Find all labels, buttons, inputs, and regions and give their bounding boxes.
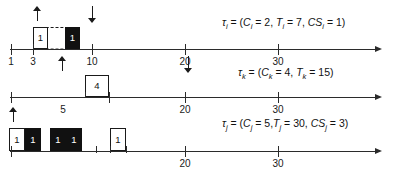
axis-tick xyxy=(85,92,86,98)
close-paren: ) xyxy=(342,16,346,28)
execution-block: 1 xyxy=(110,128,126,151)
task-parameters-tau-i: τi = (Ci = 2, Ti = 7, CSi = 1) xyxy=(222,16,345,33)
arrow-head-down-icon xyxy=(184,68,192,73)
eq3: = xyxy=(306,66,318,78)
axis-tick-label: 20 xyxy=(175,105,195,115)
axis-tick xyxy=(11,44,12,55)
block-label: 1 xyxy=(38,33,43,43)
axis-tick xyxy=(278,44,279,55)
time-axis-row1 xyxy=(10,49,377,50)
axis-tick xyxy=(109,92,110,103)
axis-tick-label: 10 xyxy=(82,57,102,67)
cs-symbol: CS xyxy=(311,117,326,129)
c-symbol: C xyxy=(243,117,251,129)
cs-symbol: CS xyxy=(308,16,323,28)
t-value: 15 xyxy=(318,66,330,78)
axis-arrowhead-icon xyxy=(375,46,382,52)
axis-tick-label: 5 xyxy=(53,105,73,115)
arrow-shaft xyxy=(37,9,38,21)
execution-block: 1 xyxy=(50,128,66,151)
block-label: 1 xyxy=(30,135,35,145)
eq2: = xyxy=(273,66,285,78)
eq3: = xyxy=(281,117,293,129)
c-symbol: C xyxy=(261,66,269,78)
axis-tick xyxy=(278,92,279,103)
axis-tick-label: 30 xyxy=(268,159,288,169)
close-paren: ) xyxy=(345,117,349,129)
execution-block: 1 xyxy=(25,128,41,151)
axis-tick xyxy=(278,146,279,157)
equals: = ( xyxy=(249,66,262,78)
tau-subscript: i xyxy=(226,22,228,31)
axis-arrowhead-icon xyxy=(375,148,382,154)
block-label: 1 xyxy=(14,135,19,145)
deadline-arrow-row1 xyxy=(88,6,97,23)
block-label: 4 xyxy=(94,81,99,91)
tau-subscript: j xyxy=(226,123,228,132)
arrow-shaft xyxy=(188,56,189,68)
eq2: = xyxy=(252,16,264,28)
execution-block: 1 xyxy=(33,27,48,49)
execution-block: 1 xyxy=(65,27,80,49)
time-axis-row2 xyxy=(10,97,377,98)
axis-tick xyxy=(11,92,12,103)
block-label: 1 xyxy=(55,135,60,145)
figure-canvas: 1 1 1 3 10 20 30 τi = (Ci = 2, Ti = 7, C… xyxy=(0,0,403,176)
block-label: 1 xyxy=(71,135,76,145)
arrow-shaft xyxy=(92,6,93,18)
axis-tick xyxy=(33,44,34,55)
block-label: 1 xyxy=(115,135,120,145)
t-value: 30 xyxy=(293,117,305,129)
arrow-head-down-icon xyxy=(88,18,96,23)
time-axis-row3 xyxy=(10,151,377,152)
block-label: 1 xyxy=(70,33,75,43)
arrow-shaft xyxy=(62,59,63,71)
axis-tick-label: 30 xyxy=(268,105,288,115)
axis-tick xyxy=(110,146,111,153)
task-parameters-tau-k: τk = (Ck = 4, Tk = 15) xyxy=(238,66,333,83)
axis-tick-label: 3 xyxy=(23,57,43,67)
task-parameters-tau-j: τj = (Cj = 5,Tj = 30, CSj = 3) xyxy=(222,117,348,134)
deadline-arrow-row2 xyxy=(184,56,193,73)
axis-tick xyxy=(126,146,127,153)
c-symbol: C xyxy=(243,16,251,28)
equals: = ( xyxy=(231,16,244,28)
axis-tick xyxy=(185,44,186,55)
eq2: = xyxy=(252,117,264,129)
axis-tick xyxy=(11,146,12,157)
axis-tick xyxy=(96,146,97,153)
eq4: = xyxy=(324,16,336,28)
arrow-shaft xyxy=(13,110,14,122)
axis-tick xyxy=(185,92,186,103)
axis-tick xyxy=(185,146,186,157)
tau-subscript: k xyxy=(242,72,246,81)
eq3: = xyxy=(284,16,296,28)
equals: = ( xyxy=(231,117,244,129)
axis-tick-label: 1 xyxy=(1,57,21,67)
execution-block: 1 xyxy=(66,128,82,151)
close-paren: ) xyxy=(330,66,334,78)
axis-tick xyxy=(92,44,93,55)
eq4: = xyxy=(327,117,339,129)
execution-block: 4 xyxy=(85,75,109,97)
axis-arrowhead-icon xyxy=(375,94,382,100)
axis-tick-label: 20 xyxy=(175,159,195,169)
